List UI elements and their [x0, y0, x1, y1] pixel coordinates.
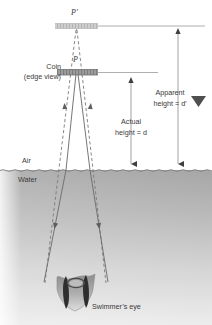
virtual-ray-arrowheads	[62, 103, 94, 110]
apparent-height-label-line1: Apparent	[143, 88, 197, 97]
virtual-ray-left-arrow	[62, 103, 68, 110]
real-ray-left-air	[66, 74, 76, 170]
swimmer-eye-label: Swimmer’s eye	[92, 302, 141, 311]
actual-coin-bar	[57, 70, 98, 76]
figure-canvas	[0, 0, 212, 325]
apparent-height-label-line2: height = d′	[139, 99, 201, 108]
water-label: Water	[18, 175, 37, 184]
coin-label-line2: (edge view)	[8, 72, 61, 81]
actual-height-label-line2: height = d	[100, 128, 162, 137]
virtual-ray-right-arrow	[88, 103, 94, 110]
image-point-label: P′	[71, 8, 78, 17]
air-label: Air	[22, 156, 31, 165]
actual-height-label-line1: Actual	[104, 117, 158, 126]
actual-arrow-up-head	[128, 77, 133, 83]
apparent-arrow-up-head	[175, 28, 180, 34]
object-point-label: P	[73, 55, 78, 64]
coin-label-line1: Coin	[19, 62, 61, 71]
optics-refraction-figure: P′ P Coin (edge view) Actual height = d …	[0, 0, 212, 325]
apparent-coin-bar	[55, 24, 98, 29]
